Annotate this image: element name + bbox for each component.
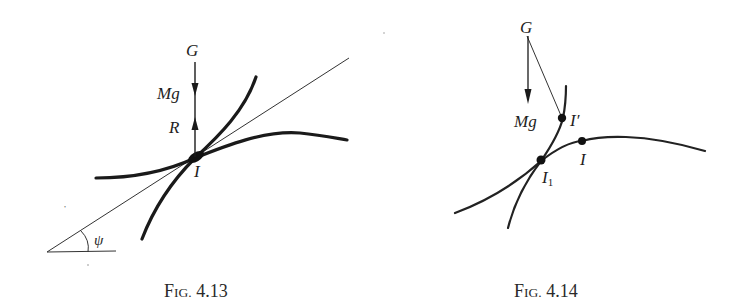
line-G-to-I-prime: [527, 36, 562, 118]
contact-point-I: [578, 137, 586, 145]
figure-4-14: G Mg I′ I I1 FIG. 4.14: [383, 18, 705, 301]
horizontal-line: [47, 251, 116, 252]
caption-fig-4-14: FIG. 4.14: [514, 281, 578, 301]
reaction-arrowhead: [192, 117, 199, 130]
label-G: G: [186, 41, 198, 60]
label-Mg: Mg: [513, 112, 537, 131]
contact-point-I1: [537, 156, 546, 165]
label-G: G: [520, 18, 532, 37]
weight-arrowhead: [192, 83, 199, 96]
weight-arrowhead: [525, 89, 532, 104]
figure-4-13: ψ G Mg R I , FIG. 4.13: [47, 41, 349, 301]
label-I: I: [579, 150, 587, 169]
stray-dot: [87, 264, 88, 265]
figure-canvas: ψ G Mg R I , FIG. 4.13: [0, 0, 739, 308]
stray-dot: [383, 32, 384, 33]
label-I1: I1: [541, 168, 553, 188]
angle-arc: [81, 231, 88, 252]
curve-shallow: [455, 137, 705, 213]
contact-point-I-prime: [558, 114, 566, 122]
caption-fig-4-13: FIG. 4.13: [164, 281, 228, 301]
label-Mg: Mg: [156, 84, 180, 103]
stray-mark: ,: [64, 200, 66, 209]
label-R: R: [168, 118, 180, 137]
label-I-prime: I′: [569, 111, 580, 130]
angle-label-psi: ψ: [94, 232, 104, 248]
label-I: I: [193, 162, 201, 181]
